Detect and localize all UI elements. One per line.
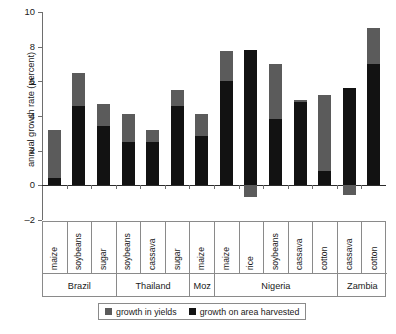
category-label-cell: maize — [215, 222, 240, 273]
bar-segment-area-harvested — [171, 106, 184, 186]
category-label-text: soybeans — [270, 233, 280, 270]
bar-segment-area-harvested — [269, 119, 282, 186]
bar-stack — [343, 12, 356, 220]
bar-segment-area-harvested — [195, 136, 208, 185]
category-label-table: maizesoybeanssugarsoybeanscassavasugarma… — [42, 221, 386, 297]
bar-stack — [48, 12, 61, 220]
bar-segment-yields — [122, 114, 135, 142]
category-label-text: cassava — [344, 238, 354, 270]
y-axis-tick-label: 2 — [30, 145, 35, 156]
x-axis-tick-mark — [263, 185, 264, 189]
bar-segment-yields — [48, 130, 61, 178]
category-label-cell: cassava — [289, 222, 314, 273]
bar-segment-yields — [367, 28, 380, 64]
bar-stack — [294, 12, 307, 220]
y-axis-tick: 6 — [8, 81, 42, 82]
x-axis-tick-mark — [165, 185, 166, 189]
category-label-cell: cassava — [141, 222, 166, 273]
category-label-text: soybeans — [73, 233, 83, 270]
category-label-cell: sugar — [166, 222, 191, 273]
bar-segment-yields — [269, 64, 282, 119]
bar-stack — [195, 12, 208, 220]
bar-segment-yields — [220, 51, 233, 81]
category-label-cell: soybeans — [68, 222, 93, 273]
category-label-text: cassava — [294, 238, 304, 270]
category-label-cell: sugar — [92, 222, 117, 273]
bar-stack — [122, 12, 135, 220]
category-label-text: cassava — [147, 238, 157, 270]
category-label-text: maize — [196, 247, 206, 270]
y-axis-tick: 4 — [8, 116, 42, 117]
x-axis-tick-mark — [361, 185, 362, 189]
bar-segment-yields — [97, 104, 110, 127]
category-label-text: sugar — [172, 249, 182, 271]
bar-segment-area-harvested — [343, 88, 356, 185]
bar-segment-yields — [318, 95, 331, 171]
y-axis-tick: 2 — [8, 151, 42, 152]
category-label-cell: rice — [240, 222, 265, 273]
category-label-text: maize — [49, 247, 59, 270]
x-axis-tick-mark — [337, 185, 338, 189]
bar-segment-area-harvested — [220, 81, 233, 185]
bar-stack — [72, 12, 85, 220]
bar-segment-yields — [244, 185, 257, 197]
y-axis-tick: –2 — [8, 220, 42, 221]
y-axis-tick: 10 — [8, 12, 42, 13]
bar-segment-yields — [72, 73, 85, 106]
group-label-cell: Zambia — [338, 273, 387, 297]
legend-swatch-icon — [189, 308, 196, 315]
x-axis-tick-mark — [116, 185, 117, 189]
legend-item[interactable]: growth in yields — [105, 307, 177, 317]
bar-segment-area-harvested — [244, 50, 257, 185]
stacked-bar-chart: annual growth rate (percent) –20246810 m… — [0, 0, 396, 334]
bar-segment-area-harvested — [318, 171, 331, 185]
legend-swatch-icon — [105, 308, 112, 315]
x-axis-tick-mark — [288, 185, 289, 189]
bar-stack — [146, 12, 159, 220]
plot-area: –20246810 — [42, 12, 386, 220]
x-axis-tick-mark — [214, 185, 215, 189]
bar-stack — [269, 12, 282, 220]
bar-segment-area-harvested — [367, 64, 380, 185]
category-label-cell: soybeans — [117, 222, 142, 273]
y-axis-tick-label: 6 — [30, 75, 35, 86]
category-label-text: rice — [245, 256, 255, 270]
bar-series-container — [42, 12, 386, 220]
legend-item[interactable]: growth on area harvested — [189, 307, 300, 317]
bar-stack — [97, 12, 110, 220]
y-axis-tick-label: –2 — [25, 214, 35, 225]
group-label-cell: Moz — [190, 273, 215, 297]
group-label-cell: Thailand — [117, 273, 191, 297]
bar-segment-yields — [294, 100, 307, 103]
category-label-cell: cotton — [362, 222, 387, 273]
bar-segment-area-harvested — [48, 178, 61, 186]
y-axis-tick-label: 10 — [25, 6, 35, 17]
category-label-cell: soybeans — [264, 222, 289, 273]
category-label-cell: cassava — [338, 222, 363, 273]
bar-segment-yields — [195, 114, 208, 136]
y-axis-tick-label: 4 — [30, 110, 35, 121]
group-label-cell: Nigeria — [215, 273, 338, 297]
bar-segment-area-harvested — [122, 142, 135, 185]
bar-segment-yields — [343, 185, 356, 195]
category-label-text: soybeans — [122, 233, 132, 270]
bar-segment-area-harvested — [294, 102, 307, 185]
bar-segment-area-harvested — [72, 106, 85, 186]
legend-label: growth in yields — [116, 307, 177, 317]
y-axis-tick-label: 8 — [30, 41, 35, 52]
chart-legend: growth in yieldsgrowth on area harvested — [98, 303, 306, 320]
category-label-cell: cotton — [313, 222, 338, 273]
bar-stack — [220, 12, 233, 220]
x-axis-tick-mark — [239, 185, 240, 189]
y-axis-tick: 0 — [8, 185, 42, 186]
bar-segment-area-harvested — [97, 126, 110, 185]
bar-segment-area-harvested — [146, 142, 159, 185]
x-axis-tick-mark — [312, 185, 313, 189]
category-label-text: cotton — [319, 247, 329, 270]
bar-stack — [171, 12, 184, 220]
category-label-text: cotton — [369, 247, 379, 270]
footer-caption — [2, 325, 182, 331]
bar-segment-yields — [146, 130, 159, 142]
category-label-cell: maize — [43, 222, 68, 273]
x-axis-tick-mark — [67, 185, 68, 189]
